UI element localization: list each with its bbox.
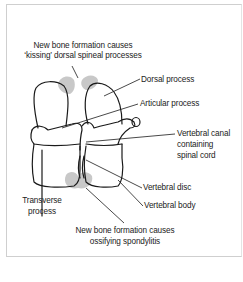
label-transverse-line2: process bbox=[20, 207, 64, 217]
label-articular-process: Articular process bbox=[140, 99, 199, 109]
label-kissing-line1: New bone formation causes bbox=[18, 41, 148, 51]
leader-canal bbox=[86, 134, 175, 142]
label-ossifying-line2: ossifying spondylitis bbox=[60, 237, 190, 247]
leader-articular bbox=[62, 104, 138, 128]
label-transverse-line1: Transverse bbox=[20, 196, 64, 206]
label-vertebral-disc: Vertebral disc bbox=[143, 183, 191, 193]
leader-ossifying bbox=[86, 188, 124, 223]
label-dorsal-process: Dorsal process bbox=[141, 75, 194, 85]
label-vertebral-body: Vertebral body bbox=[144, 201, 195, 211]
label-vertebral-canal-line2: containing bbox=[177, 140, 213, 150]
label-vertebral-canal-line1: Vertebral canal bbox=[177, 129, 230, 139]
label-ossifying-line1: New bone formation causes bbox=[60, 226, 190, 236]
leader-disc bbox=[86, 160, 142, 188]
label-kissing-line2: ‘kissing’ dorsal spineal processes bbox=[18, 51, 148, 61]
leader-kissing bbox=[72, 66, 78, 78]
leader-body bbox=[118, 180, 143, 206]
label-vertebral-canal-line3: spinal cord bbox=[177, 151, 216, 161]
right-dorsal-process bbox=[85, 83, 122, 124]
